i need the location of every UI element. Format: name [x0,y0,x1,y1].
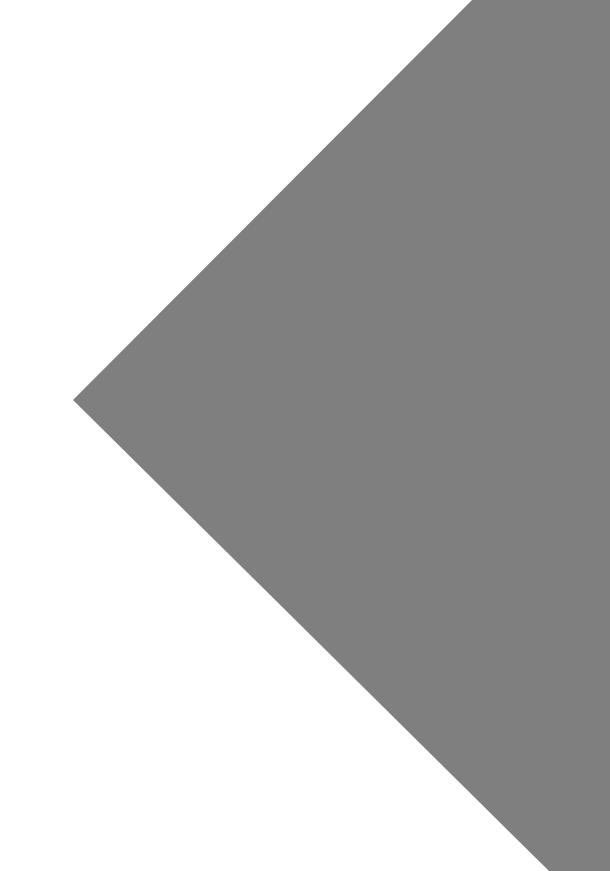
image-canvas: Blank white page with a large flat gray … [0,0,610,871]
gray-wedge-shape [0,0,610,871]
